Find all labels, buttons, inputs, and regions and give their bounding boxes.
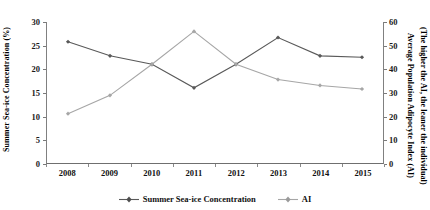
x-tick-label: 2010	[132, 168, 172, 178]
x-tick-label: 2008	[47, 168, 87, 178]
data-point-marker	[192, 86, 196, 90]
x-tick-label: 2014	[301, 168, 341, 178]
data-point-marker	[318, 54, 322, 58]
data-point-marker	[66, 112, 70, 116]
right-tick-mark	[384, 22, 387, 23]
right-tick-mark	[384, 93, 387, 94]
legend-item-seaice[interactable]: Summer Sea-ice Concentration	[119, 194, 256, 204]
series-line-ai	[68, 31, 362, 113]
x-tick-mark	[342, 164, 343, 167]
data-point-marker	[318, 83, 322, 87]
x-tick-label: 2015	[343, 168, 383, 178]
right-tick-label: 50	[389, 41, 398, 51]
data-point-marker	[66, 40, 70, 44]
chart-container: Summer Sea-ice Concentration (%) Average…	[0, 0, 430, 210]
left-tick-label: 10	[0, 112, 40, 122]
left-tick-label: 25	[0, 41, 40, 51]
plot-area	[46, 22, 384, 164]
right-axis-title-line1: Average Population Adipocyte Index (AI)	[406, 8, 415, 204]
series-canvas	[47, 22, 383, 163]
legend-item-ai[interactable]: AI	[278, 194, 311, 204]
data-point-marker	[108, 54, 112, 58]
x-tick-mark	[173, 164, 174, 167]
right-tick-label: 20	[389, 112, 398, 122]
data-point-marker	[276, 77, 280, 81]
right-tick-label: 60	[389, 17, 398, 27]
left-tick-label: 5	[0, 135, 40, 145]
x-tick-label: 2013	[258, 168, 298, 178]
legend-marker-ai-icon	[278, 195, 298, 204]
right-tick-mark	[384, 69, 387, 70]
x-tick-mark	[88, 164, 89, 167]
legend-label-seaice: Summer Sea-ice Concentration	[143, 194, 256, 204]
x-tick-mark	[384, 164, 385, 167]
series-line-seaice	[68, 38, 362, 88]
right-tick-label: 10	[389, 135, 398, 145]
legend-marker-seaice-icon	[119, 195, 139, 204]
right-axis-title-line2: (The higher the AI, the leaner the indiv…	[419, 8, 428, 204]
x-tick-mark	[131, 164, 132, 167]
x-tick-label: 2009	[89, 168, 129, 178]
right-tick-mark	[384, 46, 387, 47]
legend-label-ai: AI	[302, 194, 311, 204]
right-tick-mark	[384, 140, 387, 141]
right-tick-label: 40	[389, 64, 398, 74]
right-axis-title: Average Population Adipocyte Index (AI) …	[406, 8, 430, 204]
x-tick-label: 2011	[174, 168, 214, 178]
data-point-marker	[360, 55, 364, 59]
x-tick-mark	[300, 164, 301, 167]
left-tick-label: 30	[0, 17, 40, 27]
left-tick-label: 20	[0, 64, 40, 74]
x-tick-mark	[46, 164, 47, 167]
x-tick-mark	[215, 164, 216, 167]
x-tick-mark	[257, 164, 258, 167]
chart-legend: Summer Sea-ice Concentration AI	[0, 194, 430, 204]
left-tick-label: 0	[0, 159, 40, 169]
right-tick-label: 0	[389, 159, 393, 169]
x-tick-label: 2012	[216, 168, 256, 178]
right-tick-mark	[384, 117, 387, 118]
data-point-marker	[360, 87, 364, 91]
right-tick-label: 30	[389, 88, 398, 98]
left-tick-label: 15	[0, 88, 40, 98]
